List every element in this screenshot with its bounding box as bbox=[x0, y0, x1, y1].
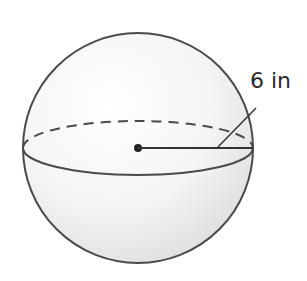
sphere-diagram: 6 in bbox=[0, 0, 307, 281]
radius-label: 6 in bbox=[250, 68, 291, 93]
